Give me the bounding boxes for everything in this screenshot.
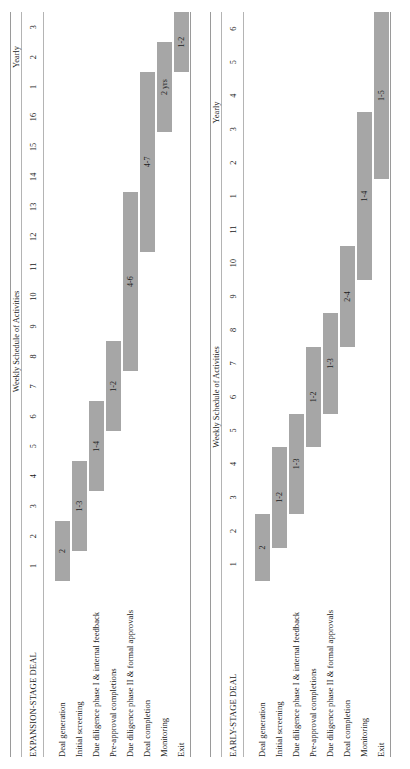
rotated-figure-canvas: Weekly Schedule of ActivitiesYearlyEXPAN… — [0, 0, 410, 769]
axis-tick: 6 — [23, 401, 44, 431]
gantt-bar-label: 4-7 — [143, 157, 151, 168]
gantt-bar-cell: 1-5 — [373, 12, 391, 179]
timeline-empty — [139, 12, 156, 72]
gantt-bar-label: 4-6 — [126, 276, 134, 287]
gantt-bar-label: 1-4 — [360, 191, 368, 202]
axis-tick: 6 — [223, 12, 244, 46]
gantt-bar-cell: 2 — [254, 514, 271, 581]
group-header-spacer — [12, 581, 22, 757]
activity-label: Deal completion — [139, 581, 156, 757]
activity-row: Initial screening1-2 — [271, 12, 288, 757]
activity-label: Due diligence phase II & formal approval… — [322, 581, 339, 757]
activity-row: Due diligence phase II & formal approval… — [322, 12, 339, 757]
gantt-bar-label: 2 yrs — [160, 79, 168, 95]
activity-row: Monitoring2 yrs — [156, 12, 173, 757]
gantt-bar-label: 1-3 — [75, 501, 83, 512]
activity-row: Deal generation2 — [254, 12, 271, 757]
gantt-bar: 1-2 — [306, 347, 321, 447]
activity-row: Due diligence phase I & internal feedbac… — [288, 12, 305, 757]
activity-label: Due diligence phase I & internal feedbac… — [288, 581, 305, 757]
axis-tick: 4 — [223, 447, 244, 480]
gantt-bar-label: 1-3 — [292, 459, 300, 470]
group-header-row: Weekly Schedule of ActivitiesYearly — [12, 12, 22, 757]
gantt-bar: 1-4 — [357, 112, 372, 279]
activity-row: Deal generation2 — [54, 12, 71, 757]
timeline-empty — [156, 132, 173, 581]
activity-row: Due diligence phase II & formal approval… — [122, 12, 139, 757]
gantt-bar: 4-6 — [123, 192, 138, 372]
activity-label: Deal generation — [54, 581, 71, 757]
timeline-empty — [71, 551, 88, 581]
deal-title: EARLY-STAGE DEAL — [223, 581, 244, 757]
activity-label: Monitoring — [156, 581, 173, 757]
timeline-empty — [322, 12, 339, 313]
gantt-bar-cell: 1-2 — [105, 342, 122, 432]
axis-tick: 7 — [23, 371, 44, 401]
tick-row: EARLY-STAGE DEAL1234567891011123456 — [223, 12, 244, 757]
axis-tick: 5 — [223, 414, 244, 447]
group-header-spacer — [212, 581, 222, 757]
axis-tick: 7 — [223, 347, 244, 380]
axis-tick: 2 — [23, 521, 44, 551]
axis-tick: 1 — [23, 72, 44, 102]
axis-tick: 4 — [23, 461, 44, 491]
schedule-of-activities-figure: Weekly Schedule of ActivitiesYearlyEXPAN… — [0, 0, 410, 769]
timeline-empty — [322, 414, 339, 581]
axis-tick: 14 — [23, 162, 44, 192]
activity-row: Pre-approval completions1-2 — [105, 12, 122, 757]
gantt-bar-cell: 1-2 — [271, 447, 288, 547]
axis-tick: 3 — [223, 112, 244, 145]
activity-row: Pre-approval completions1-2 — [305, 12, 322, 757]
gantt-panel: Weekly Schedule of ActivitiesYearlyEARLY… — [210, 12, 392, 757]
axis-tick: 2 — [223, 514, 244, 547]
timeline-empty — [271, 548, 288, 581]
activity-label: Exit — [373, 581, 391, 757]
timeline-empty — [288, 12, 305, 414]
gantt-bar-cell: 1-3 — [288, 414, 305, 514]
gantt-bar-label: 1-5 — [377, 90, 385, 101]
gantt-bar-cell: 1-2 — [173, 12, 191, 72]
table-rule-bottom — [391, 12, 393, 757]
timeline-empty — [271, 12, 288, 447]
timeline-empty — [356, 12, 373, 112]
group-header-row: Weekly Schedule of ActivitiesYearly — [212, 12, 222, 757]
axis-tick: 3 — [223, 481, 244, 514]
gantt-bar-label: 2 — [258, 546, 266, 550]
axis-tick: 11 — [223, 213, 244, 246]
activity-label: Pre-approval completions — [305, 581, 322, 757]
axis-tick: 2 — [223, 146, 244, 179]
activity-row: Deal completion4-7 — [139, 12, 156, 757]
activity-row: Due diligence phase I & internal feedbac… — [88, 12, 105, 757]
gantt-table: Weekly Schedule of ActivitiesYearlyEXPAN… — [10, 12, 192, 757]
gantt-bar-cell: 2 yrs — [156, 42, 173, 132]
activity-row: Initial screening1-3 — [71, 12, 88, 757]
activity-row: Deal completion2-4 — [339, 12, 356, 757]
axis-tick: 16 — [23, 102, 44, 132]
gantt-bar: 1-3 — [72, 461, 87, 551]
activity-label: Initial screening — [71, 581, 88, 757]
activity-label: Deal completion — [339, 581, 356, 757]
axis-tick: 3 — [23, 491, 44, 521]
gantt-bar: 1-3 — [323, 313, 338, 413]
gantt-bar: 1-4 — [89, 401, 104, 491]
axis-tick: 3 — [23, 12, 44, 42]
table-rule-bottom — [191, 12, 193, 757]
axis-tick: 10 — [223, 246, 244, 279]
tick-row: EXPANSION-STAGE DEAL12345678910111213141… — [23, 12, 44, 757]
gantt-bar-cell: 1-4 — [356, 112, 373, 279]
axis-tick: 11 — [23, 252, 44, 282]
gantt-bar: 1-3 — [289, 414, 304, 514]
activity-label: Exit — [173, 581, 191, 757]
timeline-empty — [122, 371, 139, 581]
gantt-bar: 1-2 — [106, 342, 121, 432]
gantt-bar: 2 yrs — [157, 42, 172, 132]
timeline-empty — [88, 12, 105, 401]
axis-tick: 5 — [23, 431, 44, 461]
group-header-yearly: Yearly — [12, 12, 22, 102]
gantt-table: Weekly Schedule of ActivitiesYearlyEARLY… — [210, 12, 392, 757]
axis-tick: 1 — [223, 179, 244, 212]
gantt-bar-cell: 2 — [54, 521, 71, 581]
axis-tick: 9 — [23, 312, 44, 342]
activity-row: Exit1-2 — [173, 12, 191, 757]
timeline-empty — [156, 12, 173, 42]
